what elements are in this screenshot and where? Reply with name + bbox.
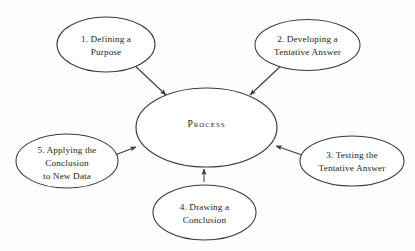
- node-2-ellipse-shape: [255, 20, 360, 71]
- node-4-label-line-1: 4. Drawing a: [180, 202, 230, 212]
- node-1-label-line-1: 1. Defining a: [81, 34, 131, 44]
- node-5-label-line-2: Conclusion: [45, 158, 89, 168]
- arrow-node-3-to-center: [276, 146, 302, 155]
- node-4[interactable]: 4. Drawing a Conclusion: [153, 185, 256, 240]
- node-3-label-line-2: Tentative Answer: [319, 163, 386, 173]
- center-label: Process: [187, 118, 225, 129]
- node-3[interactable]: 3. Testing the Tentative Answer: [300, 136, 404, 186]
- node-center[interactable]: Process: [136, 88, 277, 167]
- node-5[interactable]: 5. Applying the Conclusion to New Data: [16, 134, 118, 188]
- node-1-label-line-2: Purpose: [91, 47, 122, 57]
- node-4-ellipse-shape: [153, 185, 256, 240]
- node-1[interactable]: 1. Defining a Purpose: [57, 17, 155, 72]
- node-3-label-line-1: 3. Testing the: [326, 150, 378, 160]
- node-2-label-line-1: 2. Developing a: [277, 34, 338, 44]
- arrow-node-1-to-center: [131, 62, 166, 95]
- node-4-label-line-2: Conclusion: [183, 215, 227, 225]
- diagram-canvas: Process 1. Defining a Purpose 2. Develop…: [0, 0, 415, 251]
- arrow-node-5-to-center: [115, 147, 136, 155]
- process-cycle-diagram: Process 1. Defining a Purpose 2. Develop…: [0, 0, 415, 251]
- node-2-label-line-2: Tentative Answer: [274, 47, 341, 57]
- node-5-label-line-1: 5. Applying the: [37, 145, 96, 155]
- node-3-ellipse-shape: [300, 136, 404, 186]
- node-5-label-line-3: to New Data: [43, 171, 91, 181]
- node-1-ellipse-shape: [57, 17, 155, 72]
- node-2[interactable]: 2. Developing a Tentative Answer: [255, 20, 360, 71]
